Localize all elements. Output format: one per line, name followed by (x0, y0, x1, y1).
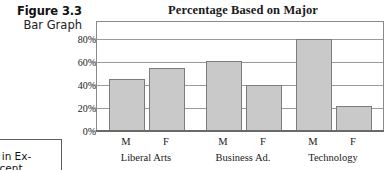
bar (336, 106, 372, 131)
group-label: Business Ad. (193, 152, 293, 163)
figure-container: Figure 3.3 Bar Graph le in Ex- ercent. P… (0, 0, 390, 170)
bar (149, 68, 185, 131)
x-tick-label: M (108, 136, 144, 147)
x-tick-label: M (295, 136, 331, 147)
y-tick-mark (91, 131, 96, 132)
x-tick-label: F (335, 136, 371, 147)
x-tick-label: M (205, 136, 241, 147)
gridline (97, 39, 383, 40)
x-axis-baseline (96, 130, 384, 132)
plot-area (96, 21, 384, 131)
chart-title: Percentage Based on Major (96, 3, 390, 18)
y-tick-mark (91, 108, 96, 109)
bar (246, 85, 282, 131)
x-tick-label: F (148, 136, 184, 147)
bar (109, 79, 145, 131)
group-label: Liberal Arts (96, 152, 196, 163)
group-label: Technology (283, 152, 383, 163)
x-tick-label: F (245, 136, 281, 147)
bar (206, 61, 242, 131)
bar (296, 39, 332, 131)
y-tick-mark (91, 62, 96, 63)
y-tick-mark (91, 85, 96, 86)
y-axis: 80%60%40%20%0% (50, 0, 96, 170)
y-tick-mark (91, 39, 96, 40)
